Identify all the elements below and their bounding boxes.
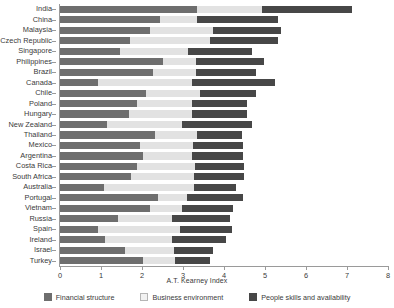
bar-segment — [60, 163, 137, 170]
bar-segment — [187, 194, 243, 201]
stacked-bar — [60, 226, 232, 233]
bar-segment — [155, 131, 197, 138]
bar-segment — [60, 90, 146, 97]
bar-segment — [137, 163, 195, 170]
y-axis-tick — [52, 166, 56, 167]
bar-row — [60, 215, 388, 222]
stacked-bar — [60, 90, 256, 97]
bar-row — [60, 110, 388, 117]
y-axis-tick — [52, 156, 56, 157]
y-axis-label: Hungary — [24, 110, 52, 117]
stacked-bar — [60, 205, 233, 212]
bar-segment — [196, 69, 257, 76]
y-axis-label: India — [36, 5, 52, 12]
y-axis-label: Israel — [34, 246, 52, 253]
stacked-bar — [60, 257, 210, 264]
bar-row — [60, 6, 388, 13]
stacked-bar — [60, 184, 236, 191]
legend-swatch-financial-structure — [44, 293, 52, 301]
y-axis-tick — [52, 114, 56, 115]
stacked-bar — [60, 100, 247, 107]
y-axis-labels: IndiaChinaMalaysiaCzech RepublicSingapor… — [0, 4, 56, 266]
x-axis-tick — [347, 266, 348, 270]
bar-segment — [131, 173, 193, 180]
stacked-bar — [60, 58, 264, 65]
bar-segment — [197, 131, 242, 138]
bar-segment — [60, 205, 150, 212]
y-axis-label: China — [33, 16, 52, 23]
y-axis-tick — [52, 30, 56, 31]
legend-label-financial-structure: Financial structure — [56, 293, 115, 302]
bar-segment — [143, 152, 192, 159]
y-axis-label: Mexico — [29, 141, 52, 148]
bar-row — [60, 121, 388, 128]
bar-segment — [150, 27, 213, 34]
stacked-bar — [60, 142, 243, 149]
stacked-bar — [60, 110, 247, 117]
y-axis-label: Vietnam — [25, 204, 52, 211]
bar-segment — [60, 121, 107, 128]
bar-segment — [118, 215, 172, 222]
bar-row — [60, 69, 388, 76]
bar-segment — [60, 257, 143, 264]
x-axis-tick — [142, 266, 143, 270]
stacked-bar — [60, 173, 244, 180]
x-axis-title: A.T. Kearney Index — [0, 277, 394, 284]
legend-swatch-business-environment — [140, 293, 148, 301]
bar-segment — [60, 215, 118, 222]
y-axis-tick — [52, 229, 56, 230]
stacked-bar — [60, 247, 213, 254]
bar-segment — [107, 121, 182, 128]
stacked-bar — [60, 215, 230, 222]
bar-segment — [188, 48, 253, 55]
bar-segment — [60, 48, 120, 55]
bar-row — [60, 152, 388, 159]
bar-row — [60, 131, 388, 138]
chart-legend: Financial structure Business environment… — [0, 290, 394, 304]
stacked-bar — [60, 37, 278, 44]
y-axis-tick — [52, 125, 56, 126]
bar-segment — [194, 184, 236, 191]
x-axis-tick — [265, 266, 266, 270]
bar-segment — [150, 205, 182, 212]
x-axis-tick — [183, 266, 184, 270]
y-axis-tick — [52, 187, 56, 188]
bar-segment — [60, 184, 104, 191]
x-axis-tick — [101, 266, 102, 270]
bar-row — [60, 58, 388, 65]
y-axis-label: New Zealand — [8, 121, 52, 128]
y-axis-label: South Africa — [12, 173, 52, 180]
y-axis-tick — [52, 9, 56, 10]
bar-segment — [60, 6, 197, 13]
y-axis-tick — [52, 104, 56, 105]
bar-segment — [60, 110, 129, 117]
y-axis-tick — [52, 135, 56, 136]
bar-segment — [60, 236, 105, 243]
bar-segment — [213, 27, 281, 34]
bar-row — [60, 142, 388, 149]
bar-segment — [140, 142, 193, 149]
y-axis-tick — [52, 240, 56, 241]
y-axis-tick — [52, 20, 56, 21]
y-axis-label: Malaysia — [23, 26, 52, 33]
bar-segment — [182, 205, 233, 212]
bar-row — [60, 257, 388, 264]
bar-row — [60, 184, 388, 191]
bar-segment — [200, 90, 255, 97]
stacked-bar — [60, 48, 252, 55]
y-axis-tick — [52, 177, 56, 178]
y-axis-label: Canada — [26, 79, 52, 86]
x-axis-tick — [388, 266, 389, 270]
legend-item-people-skills: People skills and availability — [249, 293, 350, 302]
bar-segment — [174, 247, 213, 254]
bar-segment — [98, 226, 180, 233]
y-axis-label: Philippines — [16, 58, 52, 65]
bar-segment — [210, 37, 278, 44]
x-axis-tick — [306, 266, 307, 270]
legend-label-business-environment: Business environment — [152, 293, 223, 302]
y-axis-tick — [52, 51, 56, 52]
bar-segment — [60, 226, 98, 233]
y-axis-label: Russia — [29, 215, 52, 222]
bar-row — [60, 226, 388, 233]
y-axis-label: Chile — [35, 89, 52, 96]
